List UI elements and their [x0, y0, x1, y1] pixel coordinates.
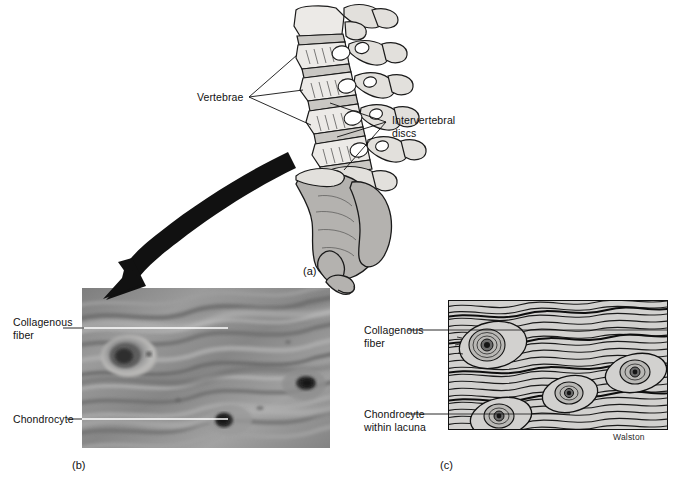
chondrocyte-lacuna-b2: [208, 405, 252, 435]
artist-signature: Walston: [613, 432, 645, 442]
label-intervertebral-discs: Intervertebral discs: [392, 114, 455, 139]
leader-lines-a: [249, 55, 386, 170]
label-c-collagenous-line1: Collagenous: [364, 324, 423, 336]
line-drawing-artwork: [449, 301, 667, 429]
vertebra-stack: [294, 6, 372, 177]
label-b-collagenous-line2: fiber: [13, 329, 34, 341]
label-c-chondrocyte-within-lacuna: Chondrocyte within lacuna: [364, 408, 426, 433]
label-b-collagenous-fiber: Collagenous fiber: [13, 316, 72, 341]
label-c-chondrocyte-line1: Chondrocyte: [364, 408, 425, 420]
caption-c: (c): [440, 459, 453, 471]
caption-b: (b): [72, 459, 85, 471]
label-intervertebral-discs-line2: discs: [392, 127, 416, 139]
panel-b-micrograph: [82, 288, 330, 448]
caption-a: (a): [303, 265, 316, 277]
anatomy-figure: .bone { fill:#eceae7; stroke:#1a1a1a; st…: [0, 0, 689, 486]
label-intervertebral-discs-line1: Intervertebral: [392, 114, 455, 126]
label-b-chondrocyte: Chondrocyte: [13, 413, 74, 426]
label-c-collagenous-fiber: Collagenous fiber: [364, 324, 423, 349]
label-c-chondrocyte-line2: within lacuna: [364, 421, 426, 433]
panel-c-line-drawing: [448, 300, 668, 430]
chondrocyte-lacuna-b1: [101, 335, 157, 377]
zoom-arrow: [103, 152, 296, 300]
label-vertebrae: Vertebrae: [197, 91, 243, 104]
chondrocyte-lacuna-b3: [282, 368, 326, 400]
micrograph-artwork: [82, 288, 330, 448]
vertebral-processes: [326, 5, 426, 192]
label-c-collagenous-line2: fiber: [364, 337, 385, 349]
label-b-collagenous-line1: Collagenous: [13, 316, 72, 328]
